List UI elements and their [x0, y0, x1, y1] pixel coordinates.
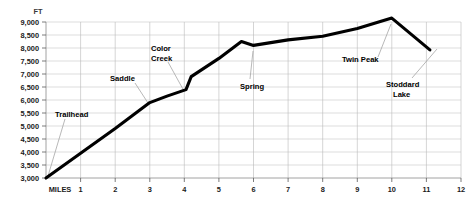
y-tick-6500: 6,500 [21, 83, 40, 92]
y-axis-tick-marks [42, 22, 46, 178]
y-tick-8500: 8,500 [21, 31, 40, 40]
x-tick-2: 2 [113, 185, 117, 194]
y-tick-9000: 9,000 [21, 18, 40, 27]
y-tick-3000: 3,000 [21, 174, 40, 183]
x-tick-3: 3 [148, 185, 152, 194]
x-axis-tick-marks [81, 178, 461, 182]
annotation-label-trailhead: Trailhead [55, 110, 89, 119]
y-tick-4500: 4,500 [21, 135, 40, 144]
y-axis-unit-label: FT [33, 7, 43, 16]
y-tick-7000: 7,000 [21, 70, 40, 79]
x-axis-tick-labels: 1 2 3 4 5 6 7 8 9 10 11 12 [79, 185, 466, 194]
elevation-profile-chart: FT 9,000 8,500 8,000 7,500 7,000 6,500 6… [0, 0, 471, 200]
annotation-label-saddle: Saddle [110, 74, 135, 83]
chart-canvas: FT 9,000 8,500 8,000 7,500 7,000 6,500 6… [0, 0, 471, 200]
x-tick-12: 12 [457, 185, 465, 194]
annotation-label-twin-peak: Twin Peak [342, 55, 379, 64]
y-tick-5000: 5,000 [21, 122, 40, 131]
x-tick-9: 9 [355, 185, 359, 194]
annotation-label-color-creek-line2: Creek [151, 54, 173, 63]
y-tick-4000: 4,000 [21, 148, 40, 157]
x-tick-8: 8 [321, 185, 325, 194]
x-tick-4: 4 [182, 185, 187, 194]
x-tick-10: 10 [388, 185, 396, 194]
annotation-label-color-creek-line1: Color [151, 44, 171, 53]
annotation-label-spring: Spring [240, 82, 264, 91]
x-tick-7: 7 [286, 185, 290, 194]
x-tick-6: 6 [251, 185, 255, 194]
y-tick-3500: 3,500 [21, 161, 40, 170]
y-tick-5500: 5,500 [21, 109, 40, 118]
x-tick-5: 5 [217, 185, 221, 194]
x-tick-11: 11 [422, 185, 430, 194]
y-tick-7500: 7,500 [21, 57, 40, 66]
y-tick-8000: 8,000 [21, 44, 40, 53]
x-tick-1: 1 [79, 185, 83, 194]
x-axis-origin-label: MILES [49, 185, 72, 194]
y-axis-tick-labels: 9,000 8,500 8,000 7,500 7,000 6,500 6,00… [21, 18, 40, 183]
annotation-label-stoddard-line1: Stoddard [386, 80, 420, 89]
y-tick-6000: 6,000 [21, 96, 40, 105]
annotation-label-stoddard-line2: Lake [393, 90, 410, 99]
